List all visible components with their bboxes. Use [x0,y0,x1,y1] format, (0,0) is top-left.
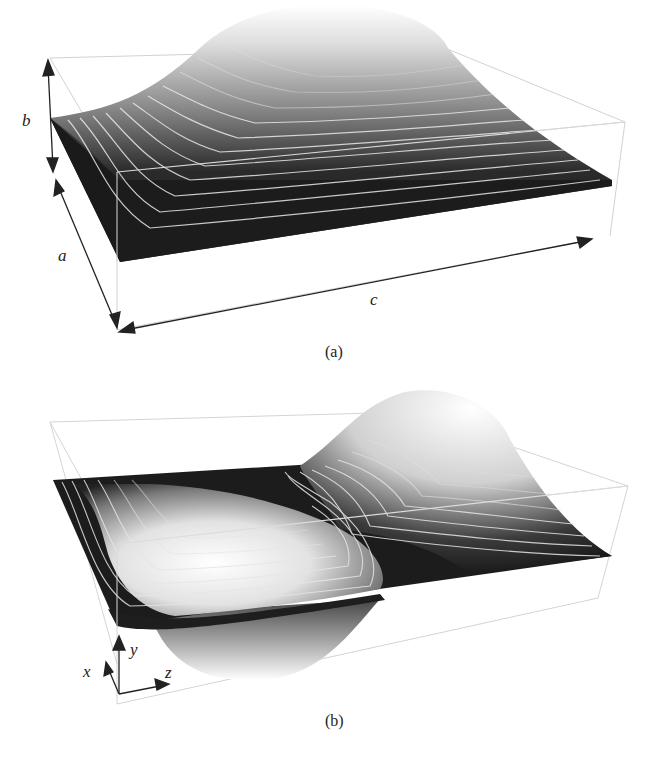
dimension-label-a: a [58,247,67,264]
y-axis-arrow-icon [113,636,125,650]
surface-plot-b [0,384,657,768]
dimension-label-b: b [22,112,31,129]
panel-a: b a c (a) [0,0,657,384]
axis-label-x: x [83,663,91,680]
dimension-label-c: c [370,291,378,308]
axis-label-z: z [165,664,172,681]
axis-label-y: y [130,641,138,658]
caption-b: (b) [325,713,344,729]
caption-a: (a) [325,344,343,360]
mode-shape-figure: b a c (a) [0,0,657,768]
surface-plot-a [0,0,657,384]
panel-b: x y z (b) [0,384,657,768]
x-axis-arrow-icon [104,662,113,676]
